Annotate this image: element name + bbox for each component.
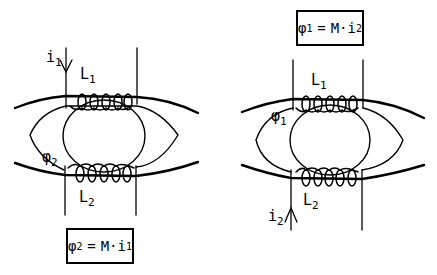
left-inner-flux-loop [63,100,145,172]
equation-box-phi1: φ1=M·i2 [296,10,364,46]
coil-label-L2-right: L2 [303,192,319,211]
left-middle-flux-right [66,106,178,167]
current-label-i2: i2 [268,208,284,227]
equation-box-phi2: φ2=M·i1 [66,228,134,264]
coil-label-L1: L1 [80,66,96,85]
coil-label-L2: L2 [79,189,95,208]
flux-label-phi2: φ2 [42,149,58,168]
flux-label-phi1: φ1 [271,108,287,127]
current-label-i1: i1 [46,49,62,68]
right-inner-flux-loop [290,105,370,175]
right-diagram [242,60,424,230]
left-diagram [15,48,198,215]
coil-label-L1-right: L1 [311,72,327,91]
